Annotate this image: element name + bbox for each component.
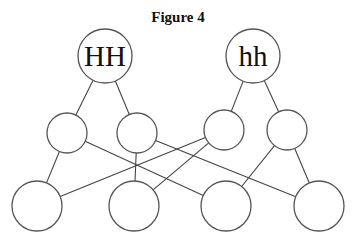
node-circle [47, 113, 87, 153]
node-m2 [117, 113, 157, 153]
node-m4 [267, 110, 307, 150]
node-circle [204, 110, 244, 150]
node-circle [12, 181, 62, 231]
edge-hh-m4 [264, 81, 278, 112]
edge-m2-b2 [135, 153, 136, 181]
node-b2 [109, 181, 159, 231]
edge-HH-m2 [115, 81, 129, 115]
node-label: HH [84, 40, 126, 72]
pedigree-diagram: Figure 4 HHhh [0, 0, 355, 244]
node-label: hh [239, 40, 269, 72]
node-circle [109, 181, 159, 231]
edge-m4-b3 [242, 146, 275, 187]
edge-hh-m3 [231, 81, 243, 111]
node-b3 [201, 181, 251, 231]
node-circle [201, 181, 251, 231]
edge-m4-b4 [295, 148, 310, 183]
node-circle [267, 110, 307, 150]
edge-m1-b1 [47, 151, 60, 182]
node-HH: HH [78, 29, 132, 83]
node-b4 [294, 181, 344, 231]
node-hh: hh [226, 29, 280, 83]
edge-m3-b2 [153, 143, 209, 190]
node-circle [294, 181, 344, 231]
node-m1 [47, 113, 87, 153]
node-b1 [12, 181, 62, 231]
node-circle [117, 113, 157, 153]
figure-title: Figure 4 [151, 9, 205, 25]
edge-HH-m1 [76, 80, 93, 115]
node-m3 [204, 110, 244, 150]
nodes-layer: HHhh [12, 29, 344, 231]
